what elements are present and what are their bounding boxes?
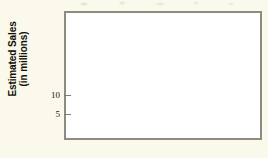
y-tick-label-5-wrap: 5 (16, 109, 60, 120)
y-axis-title-line-2: (in millions) (18, 32, 29, 87)
y-tick-mark-5 (64, 114, 71, 115)
scan-artifact (0, 0, 268, 9)
chart-figure: Estimated Sales (in millions) 10 5 (0, 0, 268, 158)
plot-area (66, 13, 260, 138)
y-tick-label-10-wrap: 10 (16, 90, 60, 101)
y-tick-label-10: 10 (16, 90, 60, 100)
y-tick-mark-10 (64, 95, 71, 96)
plot-frame (64, 11, 262, 140)
y-axis-title-line-1: Estimated Sales (7, 21, 18, 96)
y-tick-label-5: 5 (16, 109, 60, 119)
